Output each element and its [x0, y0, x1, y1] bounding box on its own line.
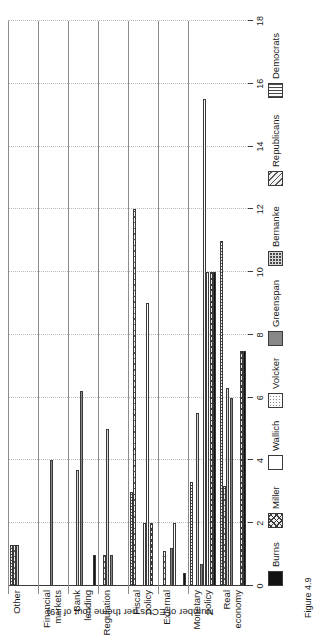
y-axis-tick-label: 0 — [256, 574, 265, 598]
axes: 024681012141618Real economyMonetary poli… — [8, 21, 248, 586]
bar-greenspan-real-economy — [230, 398, 233, 586]
bar-burns-monetary-policy — [213, 272, 216, 586]
group-separator — [38, 21, 39, 594]
bar-group — [68, 21, 98, 586]
legend-item-democrats[interactable]: Democrats — [268, 33, 283, 98]
y-axis-tick-label: 10 — [256, 260, 265, 284]
bar-democrats-other — [10, 545, 13, 586]
figure-caption: Figure 4.9 — [303, 577, 313, 618]
category-label: External — [162, 590, 173, 639]
legend-label: Bernanke — [270, 206, 281, 247]
bar-volcker-fiscal-policy — [143, 523, 146, 586]
legend-item-wallich[interactable]: Wallich — [268, 421, 283, 470]
y-axis-tick-label: 6 — [256, 386, 265, 410]
y-axis-tick-label: 4 — [256, 448, 265, 472]
legend-item-republicans[interactable]: Republicans — [268, 115, 283, 186]
legend-swatch-republicans — [268, 171, 283, 186]
bar-wallich-monetary-policy — [206, 272, 209, 586]
bar-bernanke-bank-lending — [76, 470, 79, 586]
bar-wallich-fiscal-policy — [146, 304, 149, 587]
plot-area: Number of ECUs per theme (out of 19) 024… — [0, 0, 260, 620]
bar-greenspan-regulation — [110, 555, 113, 586]
y-axis-tick-label: 18 — [256, 9, 265, 33]
legend-swatch-greenspan — [268, 331, 283, 346]
bar-miller-real-economy — [240, 351, 243, 586]
group-separator — [158, 21, 159, 594]
y-axis-tick — [248, 271, 253, 272]
bar-greenspan-bank-lending — [80, 391, 83, 586]
bar-republicans-regulation — [103, 555, 106, 586]
y-axis-tick-label: 2 — [256, 511, 265, 535]
category-label: Bank lending — [72, 590, 93, 639]
legend-item-volcker[interactable]: Volcker — [268, 358, 283, 408]
y-axis-tick — [248, 20, 253, 21]
bar-republicans-real-economy — [223, 486, 226, 586]
bar-republicans-other — [13, 545, 16, 586]
bar-group — [8, 21, 38, 586]
legend-swatch-democrats — [268, 83, 283, 98]
bar-democrats-real-economy — [220, 241, 223, 586]
bar-volcker-monetary-policy — [203, 99, 206, 586]
bar-bernanke-real-economy — [226, 388, 229, 586]
bar-burns-real-economy — [243, 351, 246, 586]
y-axis-tick-label: 16 — [256, 72, 265, 96]
legend-swatch-volcker — [268, 393, 283, 408]
category-label: Financial markets — [42, 590, 63, 639]
group-separator — [8, 21, 9, 594]
y-axis-tick-label: 14 — [256, 135, 265, 159]
legend-item-greenspan[interactable]: Greenspan — [268, 280, 283, 346]
y-axis-tick — [248, 397, 253, 398]
legend-label: Wallich — [270, 421, 281, 451]
y-axis-tick — [248, 146, 253, 147]
legend-item-bernanke[interactable]: Bernanke — [268, 206, 283, 266]
y-axis-tick-label: 8 — [256, 323, 265, 347]
legend-swatch-burns — [268, 571, 283, 586]
bar-group — [38, 21, 68, 586]
bar-greenspan-external — [170, 548, 173, 586]
y-axis-tick — [248, 334, 253, 335]
category-label: Fiscal policy — [132, 590, 153, 639]
legend-item-miller[interactable]: Miller — [268, 486, 283, 528]
y-axis-tick — [248, 522, 253, 523]
legend-swatch-wallich — [268, 455, 283, 470]
legend-label: Volcker — [270, 358, 281, 389]
y-axis-tick — [248, 208, 253, 209]
y-axis-tick-label: 12 — [256, 197, 265, 221]
y-axis-tick — [248, 83, 253, 84]
category-label: Monetary policy — [192, 590, 213, 639]
bar-miller-fiscal-policy — [150, 523, 153, 586]
bar-group — [98, 21, 128, 586]
legend-label: Miller — [270, 486, 281, 509]
y-axis-tick — [248, 585, 253, 586]
bar-democrats-monetary-policy — [190, 482, 193, 586]
category-label: Real economy — [222, 590, 243, 639]
bar-democrats-fiscal-policy — [130, 492, 133, 586]
category-label: Other — [12, 590, 23, 639]
bar-bernanke-other — [16, 545, 19, 586]
bar-group — [158, 21, 188, 586]
legend-label: Greenspan — [270, 280, 281, 327]
category-label: Regulation — [102, 590, 113, 639]
bar-miller-monetary-policy — [210, 272, 213, 586]
bar-greenspan-financial-markets — [50, 460, 53, 586]
bar-republicans-fiscal-policy — [133, 209, 136, 586]
legend-label: Republicans — [270, 115, 281, 167]
group-separator — [68, 21, 69, 594]
legend-label: Burns — [270, 542, 281, 567]
legend: BurnsMillerWallichVolckerGreenspanBernan… — [268, 6, 296, 586]
bar-republicans-external — [163, 551, 166, 586]
legend-swatch-miller — [268, 513, 283, 528]
bar-bernanke-regulation — [106, 429, 109, 586]
legend-swatch-bernanke — [268, 251, 283, 266]
y-axis-tick — [248, 459, 253, 460]
bar-bernanke-monetary-policy — [196, 413, 199, 586]
legend-item-burns[interactable]: Burns — [268, 542, 283, 586]
bar-burns-bank-lending — [93, 555, 96, 586]
bar-greenspan-monetary-policy — [200, 564, 203, 586]
bar-volcker-external — [173, 523, 176, 586]
bar-burns-external — [183, 573, 186, 586]
legend-label: Democrats — [270, 33, 281, 79]
group-separator — [98, 21, 99, 594]
